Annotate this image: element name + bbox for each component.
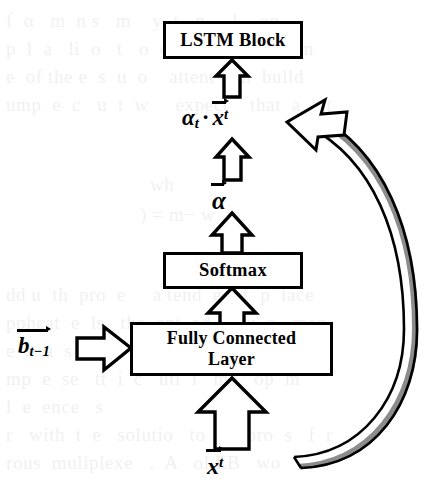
vector-arrow-tip-icon xyxy=(224,98,229,104)
b-previous-label: bt−1 xyxy=(18,332,50,359)
lstm-block-label: LSTM Block xyxy=(180,30,285,51)
x-superscript: t xyxy=(224,106,228,122)
arrow-product-to-lstm xyxy=(216,60,248,97)
alpha-vector-label: α xyxy=(212,186,226,213)
lstm-block-node[interactable]: LSTM Block xyxy=(163,21,303,59)
feedback-curved-arrow xyxy=(287,100,417,468)
vector-arrow-tip-icon xyxy=(219,446,224,452)
alpha-vector-symbol: α xyxy=(212,187,226,214)
fully-connected-label-line2: Layer xyxy=(167,349,297,370)
softmax-label: Softmax xyxy=(199,260,267,281)
alpha-times-x-label: αt·xt xyxy=(182,104,228,131)
x-symbol: x xyxy=(213,105,225,130)
alpha-vector-group: α xyxy=(212,186,226,213)
arrow-alpha-to-product xyxy=(216,139,249,180)
arrow-b-to-fc xyxy=(77,327,131,370)
dot-operator: · xyxy=(199,105,213,130)
x-input-vector-group: xt xyxy=(207,452,223,478)
vector-arrow-tip-icon xyxy=(222,180,227,186)
arrow-x-to-fc xyxy=(198,378,266,449)
b-vector-group: bt−1 xyxy=(18,332,50,359)
x-input-label: xt xyxy=(207,452,223,478)
connector-layer xyxy=(0,0,440,497)
vector-arrow-tip-icon xyxy=(46,326,51,332)
alpha-symbol: α xyxy=(182,105,195,130)
arrow-fc-to-softmax xyxy=(208,288,256,325)
figure-root: f α m n s m y t n l onp l a li o t o o n… xyxy=(0,0,440,497)
b-symbol: b xyxy=(18,333,30,358)
fully-connected-label: Fully Connected Layer xyxy=(167,328,297,370)
arrow-softmax-to-alpha xyxy=(212,213,252,253)
b-subscript: t−1 xyxy=(30,343,50,359)
vector-arrow-bar-icon xyxy=(17,329,48,332)
softmax-node[interactable]: Softmax xyxy=(163,252,303,289)
fully-connected-label-line1: Fully Connected xyxy=(167,328,297,349)
x-input-symbol: x xyxy=(207,453,219,479)
x-vector-group: xt xyxy=(213,104,229,129)
fully-connected-layer-node[interactable]: Fully Connected Layer xyxy=(130,322,333,376)
x-input-superscript: t xyxy=(219,453,223,470)
